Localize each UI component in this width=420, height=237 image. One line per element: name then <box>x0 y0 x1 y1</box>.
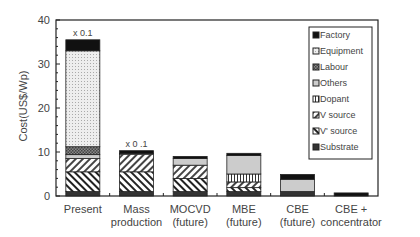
x-tick-label: Mass <box>123 203 150 215</box>
bar-segment-substrate <box>281 192 315 196</box>
legend-swatch <box>313 64 319 70</box>
bar-segment-dopant <box>227 174 261 182</box>
legend-swatch <box>313 144 319 150</box>
bar-segment-others <box>227 156 261 174</box>
x-tick-label: (future) <box>280 216 315 228</box>
legend-swatch <box>313 32 319 38</box>
x-tick-label: MBE <box>232 203 256 215</box>
bar-segment-v-source <box>173 165 207 178</box>
bar-segment-v-source <box>66 172 100 192</box>
legend-entry: Labour <box>320 62 348 72</box>
bar-segment-substrate <box>66 192 100 196</box>
bar-segment-factory <box>66 40 100 51</box>
scale-annotation: x 0.1 <box>73 28 93 38</box>
y-tick-label: 0 <box>44 190 50 202</box>
bar-segment-labour <box>66 147 100 155</box>
x-tick-label: production <box>111 216 162 228</box>
bar-segment-substrate <box>227 192 261 196</box>
scale-annotation: x 0 .1 <box>125 139 147 149</box>
bar-segment-factory <box>281 174 315 179</box>
bar-segment-v-source <box>66 159 100 172</box>
bar-segment-factory <box>120 151 154 154</box>
legend-swatch <box>313 96 319 102</box>
legend-swatch <box>313 48 319 54</box>
x-tick-label: CBE + <box>335 203 367 215</box>
legend-entry: Dopant <box>320 94 350 104</box>
bar-segment-v-source <box>227 182 261 188</box>
bar-segment-others <box>173 159 207 166</box>
legend-entry: Others <box>320 78 348 88</box>
bar-segment-equipment <box>66 51 100 147</box>
x-tick-label: MOCVD <box>170 203 211 215</box>
legend-entry: Factory <box>320 30 351 40</box>
legend-entry: Substrate <box>320 142 359 152</box>
y-tick-label: 40 <box>38 14 50 26</box>
bar-segment-v-source <box>120 172 154 192</box>
bar-segment-v-source <box>120 154 154 172</box>
x-tick-label: (future) <box>172 216 207 228</box>
x-tick-label: concentrator <box>321 216 382 228</box>
legend-entry: V source <box>320 110 356 120</box>
legend-swatch <box>313 112 319 118</box>
x-tick-label: (future) <box>226 216 261 228</box>
bar-segment-others <box>66 155 100 159</box>
bar-segment-factory <box>227 153 261 155</box>
bar-segment-v-source <box>227 188 261 192</box>
y-axis-label: Cost(US$/Wp) <box>17 61 29 151</box>
stacked-bar-chart: 010203040Presentx 0.1Massproductionx 0 .… <box>0 0 420 237</box>
y-tick-label: 20 <box>38 102 50 114</box>
bar-segment-v-source <box>173 178 207 191</box>
bar-segment-substrate <box>173 192 207 196</box>
bar-segment-others <box>281 179 315 191</box>
x-tick-label: Present <box>64 203 102 215</box>
plot-area: 010203040Presentx 0.1Massproductionx 0 .… <box>38 14 382 228</box>
y-tick-label: 10 <box>38 146 50 158</box>
bar-segment-substrate <box>120 192 154 196</box>
legend-swatch <box>313 80 319 86</box>
x-tick-label: CBE <box>286 203 309 215</box>
legend-entry: V' source <box>320 126 357 136</box>
bar-segment-factory <box>173 156 207 158</box>
legend-entry: Equipment <box>320 46 364 56</box>
y-tick-label: 30 <box>38 58 50 70</box>
bar-segment-factory <box>334 193 368 196</box>
legend-swatch <box>313 128 319 134</box>
